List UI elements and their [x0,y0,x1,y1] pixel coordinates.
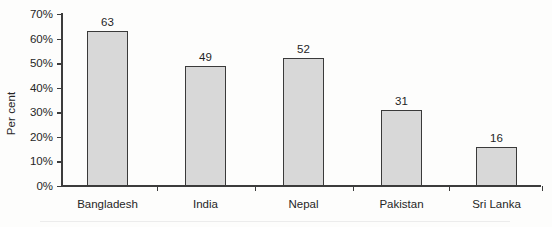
y-tick-mark [57,14,62,15]
y-tick-label: 40% [30,82,53,94]
y-tick-label: 30% [30,106,53,118]
x-tick-mark-2 [353,186,354,191]
category-label-pakistan: Pakistan [379,198,423,210]
bar-value-label: 31 [395,95,408,107]
bar-sri-lanka: 16 [476,147,517,186]
bar-chart: Per cent 0%10%20%30%40%50%60%70% 6349523… [0,0,552,227]
y-tick-mark [57,63,62,64]
category-label-bangladesh: Bangladesh [77,198,138,210]
bar-pakistan: 31 [381,110,422,186]
y-tick-label: 50% [30,57,53,69]
y-tick-mark [57,137,62,138]
y-tick-mark [57,112,62,113]
plot-area: 0%10%20%30%40%50%60%70% 6349523116 [62,14,540,186]
y-tick-mark [57,88,62,89]
bar-value-label: 49 [199,51,212,63]
bar-india: 49 [185,66,226,186]
bar-value-label: 63 [101,16,114,28]
category-label-nepal: Nepal [288,198,318,210]
y-tick-label: 60% [30,33,53,45]
category-label-sri-lanka: Sri Lanka [472,198,521,210]
category-label-india: India [193,198,218,210]
scan-artifact-line [40,221,510,222]
y-tick-mark [57,39,62,40]
y-tick-label: 10% [30,155,53,167]
y-tick-label: 20% [30,131,53,143]
x-tick-mark-0 [157,186,158,191]
y-tick-mark [57,161,62,162]
bar-value-label: 52 [297,43,310,55]
bar-nepal: 52 [283,58,324,186]
bar-value-label: 16 [490,132,503,144]
x-tick-mark-4 [542,186,543,191]
bar-bangladesh: 63 [87,31,128,186]
y-axis-title: Per cent [0,0,22,227]
y-tick-label: 0% [36,180,53,192]
y-tick-mark [57,186,62,187]
x-tick-mark-1 [255,186,256,191]
x-tick-mark-3 [449,186,450,191]
y-tick-label: 70% [30,8,53,20]
